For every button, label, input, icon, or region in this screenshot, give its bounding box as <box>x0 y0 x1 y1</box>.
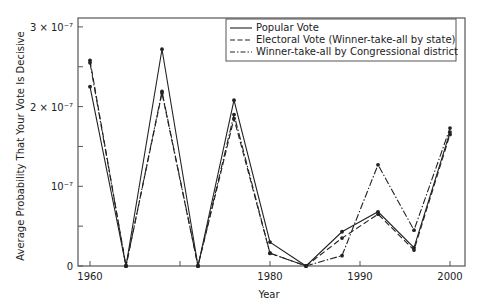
x-tick-label: 1990 <box>347 271 372 282</box>
y-tick-label: 0 <box>67 261 73 272</box>
data-point <box>160 90 164 94</box>
data-point <box>340 236 344 240</box>
x-tick-label: 1960 <box>77 271 102 282</box>
x-tick-label: 2000 <box>437 271 462 282</box>
data-point <box>268 251 272 255</box>
y-tick-label: 10⁻⁷ <box>51 181 73 192</box>
x-axis: 1960198019902000 <box>77 261 462 282</box>
y-axis: 010⁻⁷2 × 10⁻⁷3 × 10⁻⁷ <box>30 22 83 272</box>
series-line <box>90 63 450 266</box>
data-point <box>340 230 344 234</box>
x-axis-title: Year <box>257 289 280 300</box>
data-point <box>304 264 308 268</box>
data-point <box>376 212 380 216</box>
data-point <box>376 163 380 167</box>
y-tick-label: 3 × 10⁻⁷ <box>30 22 73 33</box>
data-point <box>232 113 236 117</box>
data-point <box>124 264 128 268</box>
data-point <box>88 61 92 65</box>
data-point <box>448 126 452 130</box>
legend-label: Electoral Vote (Winner-take-all by state… <box>256 34 456 45</box>
data-point <box>268 240 272 244</box>
y-axis-title: Average Probability That Your Vote Is De… <box>15 31 26 260</box>
y-tick-label: 2 × 10⁻⁷ <box>30 102 73 113</box>
line-chart: 010⁻⁷2 × 10⁻⁷3 × 10⁻⁷ 1960198019902000 Y… <box>0 0 482 308</box>
x-tick-label: 1980 <box>257 271 282 282</box>
data-point <box>232 98 236 102</box>
legend: Popular VoteElectoral Vote (Winner-take-… <box>226 19 458 61</box>
data-point <box>412 248 416 252</box>
data-point <box>196 264 200 268</box>
legend-label: Popular Vote <box>256 22 319 33</box>
data-point <box>88 85 92 89</box>
series-line <box>90 60 450 266</box>
series-line <box>90 49 450 266</box>
data-point <box>160 47 164 51</box>
legend-label: Winner-take-all by Congressional distric… <box>256 46 458 57</box>
data-point <box>340 254 344 258</box>
series-solid <box>88 47 452 268</box>
data-point <box>412 228 416 232</box>
data-series <box>88 47 452 268</box>
